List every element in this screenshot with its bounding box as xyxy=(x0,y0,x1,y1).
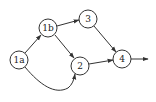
node-1b: 1b xyxy=(39,19,57,37)
node-3: 3 xyxy=(79,10,97,28)
node-4: 4 xyxy=(113,50,131,68)
graph-diagram: 1a 1b 3 2 4 xyxy=(0,0,156,102)
edge-3-4 xyxy=(94,26,116,52)
node-2: 2 xyxy=(71,57,89,75)
node-label: 4 xyxy=(119,54,125,64)
edge-2-4 xyxy=(89,60,113,64)
edge-1a-1b xyxy=(25,35,41,53)
node-1a: 1a xyxy=(10,51,28,69)
node-label: 2 xyxy=(77,61,83,71)
edge-1b-3 xyxy=(57,20,79,26)
node-label: 1b xyxy=(42,23,54,33)
node-label: 3 xyxy=(85,14,91,24)
edge-1a-2 xyxy=(25,67,75,90)
edge-1b-2 xyxy=(55,35,74,58)
node-label: 1a xyxy=(13,55,25,65)
